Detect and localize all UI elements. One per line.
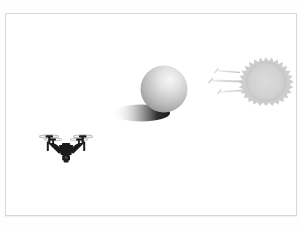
light-rays-group bbox=[209, 68, 243, 94]
scene-illustration bbox=[0, 0, 302, 228]
light-ray-1 bbox=[215, 68, 241, 73]
sun-icon bbox=[238, 57, 293, 106]
drone-body bbox=[59, 143, 73, 155]
scene-svg bbox=[0, 0, 302, 228]
drone-icon bbox=[39, 135, 93, 163]
figure-canvas bbox=[0, 0, 302, 228]
drone-camera-gimbal bbox=[62, 155, 70, 163]
sphere-body bbox=[141, 66, 188, 113]
light-ray-2 bbox=[209, 78, 242, 83]
light-ray-3 bbox=[218, 89, 243, 94]
sphere bbox=[141, 66, 188, 113]
